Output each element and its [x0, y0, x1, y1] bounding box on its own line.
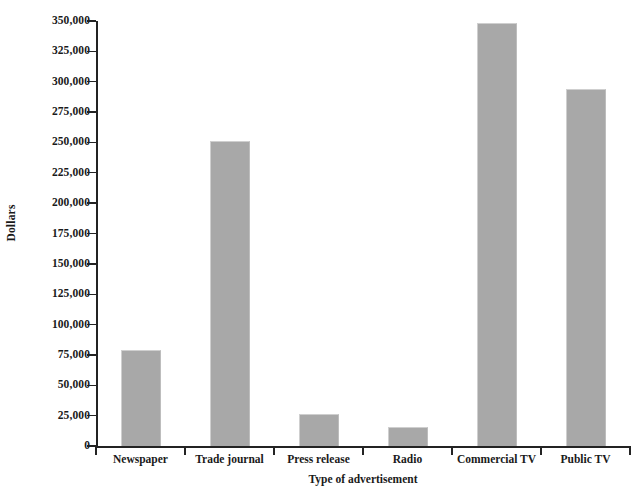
y-axis-tick-label: 200,000: [20, 197, 90, 209]
y-axis-tick-label: 225,000: [20, 167, 90, 179]
y-axis-tick: [87, 111, 96, 112]
y-axis-tick-label: 125,000: [20, 288, 90, 300]
bar: [388, 427, 428, 446]
y-axis-tick-label: 300,000: [20, 76, 90, 88]
y-axis-tick: [87, 81, 96, 82]
y-axis-line: [96, 21, 98, 446]
y-axis-title-label: Dollars: [5, 204, 17, 241]
y-axis-tick-label: 150,000: [20, 258, 90, 270]
y-axis-tick: [87, 354, 96, 355]
y-axis-tick-label: 250,000: [20, 136, 90, 148]
y-axis-tick: [87, 294, 96, 295]
bar: [210, 141, 250, 446]
y-axis-tick-labels: 350,000325,000300,000275,000250,000225,0…: [20, 0, 90, 495]
y-axis-tick: [87, 202, 96, 203]
bar: [477, 23, 517, 446]
y-axis-tick-label: 50,000: [20, 379, 90, 391]
y-axis-tick: [87, 385, 96, 386]
y-axis-tick-label: 350,000: [20, 15, 90, 27]
y-axis-tick: [87, 142, 96, 143]
bar: [121, 350, 161, 446]
x-axis-tick-label: Trade journal: [185, 452, 274, 466]
y-axis-tick-label: 175,000: [20, 228, 90, 240]
y-axis-tick-label: 75,000: [20, 349, 90, 361]
y-axis-tick: [87, 51, 96, 52]
y-axis-tick-label: 25,000: [20, 410, 90, 422]
x-axis-tick-labels: NewspaperTrade journalPress releaseRadio…: [96, 452, 630, 472]
y-axis-title: Dollars: [0, 0, 22, 446]
x-axis-tick-label: Radio: [363, 452, 452, 466]
x-axis-tick-label: Press release: [274, 452, 363, 466]
y-axis-tick-label: 100,000: [20, 319, 90, 331]
y-axis-tick: [87, 415, 96, 416]
x-axis-title: Type of advertisement: [96, 472, 630, 486]
bar: [566, 89, 606, 446]
y-axis-tick-label: 275,000: [20, 106, 90, 118]
bar: [299, 414, 339, 446]
y-axis-tick: [87, 20, 96, 21]
y-axis-tick: [87, 233, 96, 234]
plot-area: [96, 21, 630, 446]
y-axis-tick: [87, 324, 96, 325]
y-axis-tick-label: 325,000: [20, 45, 90, 57]
y-axis-tick: [87, 172, 96, 173]
x-axis-tick-label: Newspaper: [96, 452, 185, 466]
x-axis-tick-label: Public TV: [541, 452, 630, 466]
y-axis-tick-label: 0: [20, 440, 90, 452]
bar-chart: Dollars 350,000325,000300,000275,000250,…: [0, 0, 640, 495]
y-axis-tick: [87, 263, 96, 264]
x-axis-tick-label: Commercial TV: [452, 452, 541, 466]
